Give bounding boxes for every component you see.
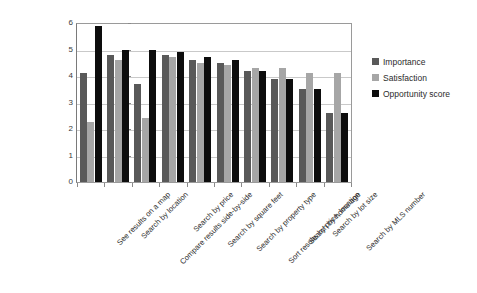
x-axis-tick-mark: [159, 183, 160, 187]
x-axis-category-label: Sort results by price, location: [287, 190, 362, 265]
bar-group: [296, 23, 323, 182]
x-axis-category-label: Search by price: [192, 190, 236, 234]
x-axis-tick-mark: [241, 183, 242, 187]
bar-importance: [189, 60, 196, 182]
x-axis-category-label: See results on a map: [115, 190, 172, 247]
bar-opportunity: [95, 26, 102, 182]
legend-swatch-icon: [372, 58, 379, 65]
x-axis-tick-mark: [77, 183, 78, 187]
legend-item-label: Opportunity score: [383, 89, 450, 99]
bar-satisfaction: [306, 73, 313, 182]
bar-opportunity: [149, 50, 156, 183]
bar-group: [324, 23, 351, 182]
bar-satisfaction: [252, 68, 259, 182]
bar-groups-layer: [77, 23, 351, 182]
legend-item: Satisfaction: [372, 71, 474, 84]
bar-opportunity: [341, 113, 348, 182]
x-axis-category-label: Compare results side-by-side: [178, 190, 254, 266]
x-axis-tick-mark: [324, 183, 325, 187]
x-axis-tick-mark: [269, 183, 270, 187]
bar-group: [241, 23, 268, 182]
x-axis-category-label: Search by square feet: [225, 190, 284, 249]
y-axis-tick-label: 5: [55, 46, 73, 54]
bar-group: [77, 23, 104, 182]
chart-legend: ImportanceSatisfactionOpportunity score: [372, 55, 474, 103]
bar-importance: [80, 73, 87, 182]
y-axis-tick-label: 1: [55, 152, 73, 160]
bar-importance: [162, 55, 169, 182]
bar-importance: [299, 89, 306, 182]
y-axis-tick-label: 2: [55, 125, 73, 133]
bar-satisfaction: [115, 60, 122, 182]
x-axis-category-label: Search by property type: [255, 190, 318, 253]
bar-satisfaction: [142, 118, 149, 182]
y-axis: 0123456: [55, 15, 73, 191]
bar-importance: [244, 71, 251, 182]
bar-importance: [326, 113, 333, 182]
x-axis-tick-mark: [214, 183, 215, 187]
bar-opportunity: [314, 89, 321, 182]
legend-swatch-icon: [372, 74, 379, 81]
y-axis-tick-label: 4: [55, 72, 73, 80]
x-axis-category-label: Search by lot size: [331, 190, 380, 239]
legend-item-label: Importance: [383, 57, 426, 67]
legend-swatch-icon: [372, 90, 379, 97]
chart-screenshot: 0123456 See results on a mapSearch by lo…: [0, 0, 477, 293]
x-axis-tick-mark: [187, 183, 188, 187]
y-axis-tick-label: 0: [55, 178, 73, 186]
bar-opportunity: [286, 79, 293, 182]
bar-group: [269, 23, 296, 182]
legend-item: Importance: [372, 55, 474, 68]
bar-opportunity: [122, 50, 129, 183]
x-axis-category-label: Search by MLS number: [364, 190, 427, 253]
bar-opportunity: [204, 57, 211, 182]
bar-importance: [134, 84, 141, 182]
bar-satisfaction: [169, 57, 176, 182]
x-axis-tick-mark: [132, 183, 133, 187]
bar-satisfaction: [279, 68, 286, 182]
x-axis-tick-mark: [296, 183, 297, 187]
bar-satisfaction: [334, 73, 341, 182]
legend-item-label: Satisfaction: [383, 73, 427, 83]
bar-opportunity: [232, 60, 239, 182]
bar-satisfaction: [197, 63, 204, 182]
legend-item: Opportunity score: [372, 87, 474, 100]
bar-group: [104, 23, 131, 182]
bar-group: [159, 23, 186, 182]
bar-satisfaction: [224, 65, 231, 182]
bar-group: [214, 23, 241, 182]
bar-opportunity: [177, 52, 184, 182]
bar-importance: [107, 55, 114, 182]
y-axis-tick-label: 6: [55, 19, 73, 27]
x-axis-category-label: Search by location: [140, 190, 191, 241]
x-axis-category-label: Search by home age: [306, 190, 362, 246]
y-axis-tick-label: 3: [55, 99, 73, 107]
bar-opportunity: [259, 71, 266, 182]
bar-importance: [271, 79, 278, 182]
y-axis-tick-mark: [128, 182, 131, 183]
bar-group: [132, 23, 159, 182]
bar-satisfaction: [87, 122, 94, 182]
x-axis-tick-mark: [104, 183, 105, 187]
x-axis-tick-mark: [351, 183, 352, 187]
bar-importance: [217, 63, 224, 182]
bar-group: [187, 23, 214, 182]
